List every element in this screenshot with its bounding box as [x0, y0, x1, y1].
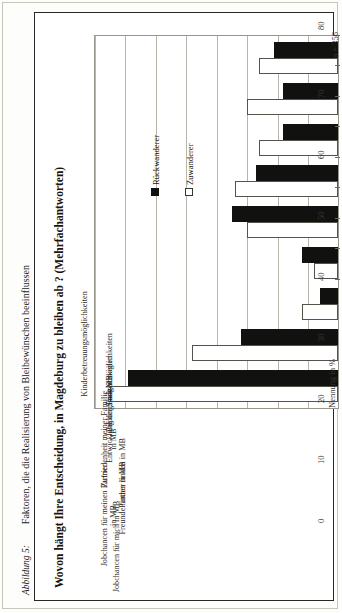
bar-freunde-zuwanderer: [302, 304, 338, 320]
tick-10: [335, 248, 340, 249]
bar-freizeit-zuwanderer: [247, 99, 338, 115]
chart-title: Wovon hängt Ihre Entscheidung, in Magdeb…: [53, 28, 71, 588]
gridline-70: [125, 36, 126, 408]
tick-label-0: 0: [316, 519, 326, 523]
tick-label-60: 60: [316, 151, 326, 160]
bar-kinderbetreuung-zuwanderer: [259, 58, 338, 74]
figure-caption-label: Abbildung 5:: [21, 545, 31, 595]
plot-area: Rückwanderer Zuwanderer: [94, 35, 339, 409]
gridline-50: [186, 36, 187, 408]
gridline-60: [156, 36, 157, 408]
chart-frame: Wovon hängt Ihre Entscheidung, in Magdeb…: [34, 12, 334, 601]
tick-label-50: 50: [316, 212, 326, 221]
bar-entwicklung-rueckwanderer: [256, 165, 338, 181]
gridline-80: [95, 36, 96, 408]
tick-label-10: 10: [316, 456, 326, 465]
tick-50: [335, 126, 340, 127]
bar-zufriedenheit-zuwanderer: [247, 222, 338, 238]
bar-jobchancen-mich-zuwanderer: [110, 386, 338, 402]
legend-item-rueckwanderer: Rückwanderer: [151, 135, 161, 196]
tick-30: [335, 187, 340, 188]
axis-title: Nennung in %: [327, 359, 337, 408]
bar-kinderbetreuung-rueckwanderer: [274, 42, 338, 58]
tick-label-80: 80: [316, 22, 326, 31]
bar-freizeit-rueckwanderer: [283, 83, 338, 99]
bar-jobchancen-mich-rueckwanderer: [128, 370, 338, 386]
bar-freunde-rueckwanderer: [320, 288, 338, 304]
tick-0: [335, 279, 340, 280]
tick-label-40: 40: [316, 273, 326, 282]
tick-20: [335, 218, 340, 219]
bar-entwicklung-zuwanderer: [235, 181, 338, 197]
tick-40: [335, 157, 340, 158]
legend-label-zuwanderer: Zuwanderer: [185, 143, 195, 185]
bar-bildung-rueckwanderer: [283, 124, 338, 140]
bar-jobchancen-partner-zuwanderer: [192, 345, 338, 361]
figure-caption-text: Faktoren, die die Realisierung von Bleib…: [20, 265, 31, 524]
tick-70: [335, 65, 340, 66]
category-label-kinderbetreuung: Kinderbetreuungsmöglichkeiten: [80, 284, 89, 404]
sample-size-note: n = 356: [330, 32, 340, 58]
figure-page: Abbildung 5: Faktoren, die die Realisier…: [0, 0, 342, 613]
tick-60: [335, 96, 340, 97]
bar-partner-rueckwanderer: [302, 247, 338, 263]
legend-swatch-white-icon: [185, 188, 193, 196]
legend-label-rueckwanderer: Rückwanderer: [151, 135, 161, 185]
tick-label-70: 70: [316, 90, 326, 99]
tick-label-20: 20: [316, 395, 326, 404]
category-label-jobchancen-mich: Jobchancen für mich in MB: [112, 484, 121, 609]
bar-bildung-zuwanderer: [259, 140, 338, 156]
tick-label-30: 30: [316, 334, 326, 343]
legend-swatch-black-icon: [151, 188, 159, 196]
legend-item-zuwanderer: Zuwanderer: [185, 143, 195, 196]
